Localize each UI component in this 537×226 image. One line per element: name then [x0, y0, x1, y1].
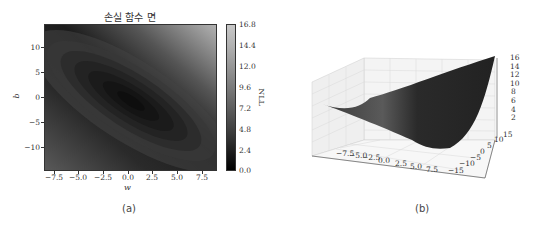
x-tick-mark — [152, 171, 153, 174]
x-tick-mark — [103, 171, 104, 174]
x-tick-mark — [128, 171, 129, 174]
y-tick-label: 0 — [24, 94, 40, 102]
y-axis-label: b — [13, 93, 21, 98]
caption-b: (b) — [415, 203, 429, 214]
plot-title: 손실 함수 면 — [44, 9, 216, 24]
z-tick-label: 8 — [511, 88, 516, 96]
y3d-tick-label: 0 — [480, 148, 485, 156]
x-tick-label: −7.5 — [44, 174, 64, 182]
y-tick-label: −5 — [24, 119, 40, 127]
colorbar-tick: 0.0 — [239, 167, 251, 175]
x-tick-label: 0.0 — [118, 174, 138, 182]
x3d-tick-label: 7.5 — [426, 166, 438, 174]
colorbar-tick: 4.8 — [239, 126, 251, 134]
x-tick-label: −5.0 — [68, 174, 88, 182]
y-tick-label: 10 — [24, 44, 40, 52]
colorbar-tick: 12.0 — [239, 63, 256, 71]
caption-a: (a) — [122, 203, 136, 214]
x3d-tick-label: 2.5 — [395, 160, 407, 168]
x-tick-mark — [202, 171, 203, 174]
x-tick-label: 5.0 — [167, 174, 187, 182]
x-axis-label: w — [124, 184, 131, 192]
y-tick-label: −10 — [24, 144, 40, 152]
colorbar-tick: 9.6 — [239, 84, 251, 92]
contour-fill — [45, 25, 217, 171]
colorbar-tick: 16.8 — [239, 21, 256, 29]
y-tick-mark — [41, 47, 44, 48]
z-tick-label: 6 — [511, 97, 516, 105]
colorbar-tick: 14.4 — [239, 42, 256, 50]
z-tick-label: 12 — [510, 71, 520, 79]
colorbar-label: NLL — [257, 88, 265, 106]
colorbar-tick: 2.4 — [239, 147, 251, 155]
y-tick-mark — [41, 147, 44, 148]
x3d-tick-label: 5.0 — [410, 163, 422, 171]
y-tick-mark — [41, 97, 44, 98]
y-tick-mark — [41, 122, 44, 123]
x-tick-label: 7.5 — [192, 174, 212, 182]
y3d-tick-label: 5 — [487, 142, 492, 150]
x-tick-label: 2.5 — [142, 174, 162, 182]
y-tick-label: 5 — [24, 69, 40, 77]
z-tick-label: 2 — [511, 114, 516, 122]
x-tick-mark — [78, 171, 79, 174]
x3d-tick-label: 0.0 — [378, 157, 390, 165]
y3d-tick-label: −15 — [448, 167, 464, 175]
contour-plot-area — [44, 24, 217, 171]
x-tick-label: −2.5 — [93, 174, 113, 182]
z-tick-label: 16 — [510, 54, 520, 62]
y-tick-mark — [41, 72, 44, 73]
y3d-tick-label: 15 — [503, 131, 513, 139]
colorbar — [226, 24, 236, 171]
colorbar-tick: 7.2 — [239, 105, 251, 113]
x-tick-mark — [177, 171, 178, 174]
x-tick-mark — [54, 171, 55, 174]
